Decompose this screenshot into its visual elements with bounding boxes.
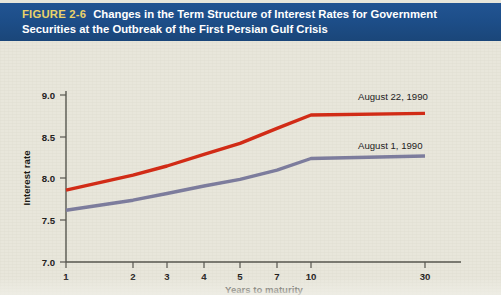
y-axis-title: Interest rate [21,151,32,206]
x-tick-label-4: 4 [201,271,207,282]
y-tick-label-8-0: 8.0 [42,173,55,184]
x-axis-title: Years to maturity [225,284,304,295]
y-tick-label-7-0: 7.0 [42,257,55,268]
x-tick-label-5: 5 [237,271,243,282]
x-tick-label-1: 1 [63,271,69,282]
series-label-august-1-1990: August 1, 1990 [358,140,423,151]
x-axis-ticks [66,262,425,268]
y-axis-ticks [60,95,66,262]
x-tick-label-10: 10 [306,271,317,282]
figure-header-line-1: FIGURE 2-6Changes in the Term Structure … [22,7,487,22]
x-tick-label-3: 3 [164,271,169,282]
x-tick-label-7: 7 [274,271,279,282]
figure-number-tag: FIGURE 2-6 [22,8,86,20]
y-tick-label-9-0: 9.0 [42,90,55,101]
line-chart-svg: 9.0 8.5 8.0 7.5 7.0 Interest rate 1 2 3 [0,41,501,295]
series-label-august-22-1990: August 22, 1990 [358,91,428,102]
series-line-august-1-1990 [66,156,425,210]
figure-title-line-2: Securities at the Outbreak of the First … [22,22,487,37]
y-tick-label-8-5: 8.5 [42,132,56,143]
chart-plot-area: 9.0 8.5 8.0 7.5 7.0 Interest rate 1 2 3 [0,41,501,295]
x-tick-label-30: 30 [420,271,431,282]
figure-container: FIGURE 2-6Changes in the Term Structure … [0,0,501,295]
figure-header-band: FIGURE 2-6Changes in the Term Structure … [0,3,501,41]
y-tick-label-7-5: 7.5 [42,215,56,226]
x-tick-label-2: 2 [130,271,135,282]
figure-title-line-1: Changes in the Term Structure of Interes… [93,8,437,20]
